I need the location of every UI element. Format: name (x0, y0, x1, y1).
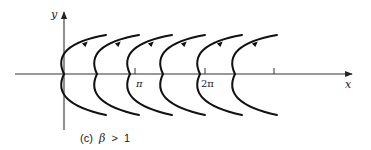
y-axis-label: y (51, 9, 57, 20)
trajectory-2 (94, 35, 139, 115)
tick-label-2pi: 2π (201, 79, 214, 89)
tick-label-pi: π (136, 79, 143, 89)
x-axis-label: x (345, 79, 351, 90)
arrow-icon (181, 42, 188, 48)
trajectories (61, 35, 277, 115)
caption-relation: > (111, 132, 117, 144)
trajectory-6 (232, 35, 277, 115)
trajectory-4 (160, 35, 205, 115)
phase-portrait-diagram (0, 0, 371, 150)
caption-prefix: (c) (80, 132, 93, 144)
caption-symbol: β (99, 132, 105, 145)
trajectory-3 (127, 35, 172, 115)
caption-value: 1 (124, 132, 130, 144)
arrow-icon (82, 42, 89, 48)
arrow-icon (148, 42, 155, 48)
trajectory-1 (61, 35, 106, 115)
arrow-icon (115, 42, 122, 48)
figure-caption: (c) β > 1 (80, 132, 130, 145)
